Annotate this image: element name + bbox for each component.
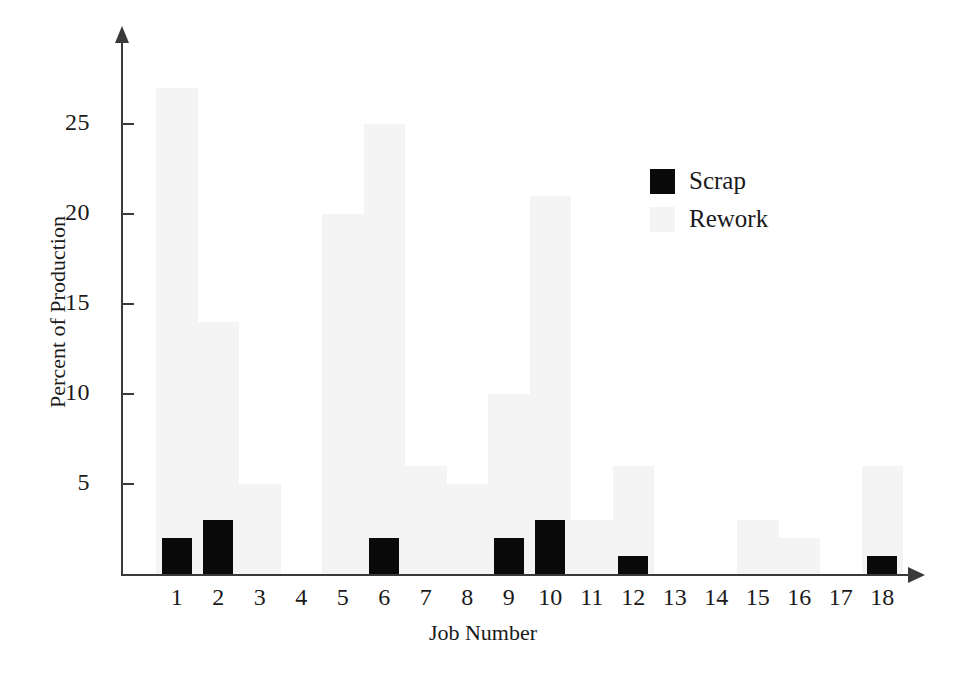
x-tick-label-6: 6 — [363, 583, 405, 611]
legend-label-rework: Rework — [689, 205, 768, 233]
x-tick-label-13: 13 — [654, 583, 696, 611]
y-tick-25 — [123, 123, 134, 125]
bar-rework-15 — [737, 520, 779, 574]
y-axis-arrow-icon — [115, 26, 129, 43]
bar-rework-6 — [364, 124, 406, 574]
x-tick-label-7: 7 — [405, 583, 447, 611]
y-tick-10 — [123, 393, 134, 395]
y-tick-5 — [123, 483, 134, 485]
bar-rework-3 — [239, 484, 281, 574]
x-tick-label-17: 17 — [820, 583, 862, 611]
x-tick-label-9: 9 — [488, 583, 530, 611]
legend-swatch-scrap-icon — [650, 169, 675, 194]
legend-item-rework: Rework — [650, 200, 880, 238]
x-tick-label-8: 8 — [446, 583, 488, 611]
y-tick-label-25: 25 — [44, 110, 90, 134]
chart-legend: ScrapRework — [650, 162, 880, 238]
x-axis-arrow-icon — [908, 567, 925, 583]
bar-scrap-10 — [535, 520, 565, 574]
x-tick-label-11: 11 — [571, 583, 613, 611]
x-tick-label-2: 2 — [197, 583, 239, 611]
x-tick-label-18: 18 — [861, 583, 903, 611]
bar-rework-10 — [530, 196, 572, 574]
bar-scrap-18 — [867, 556, 897, 574]
bar-rework-1 — [156, 88, 198, 574]
y-axis-title: Percent of Production — [46, 192, 70, 432]
bar-rework-8 — [447, 484, 489, 574]
x-axis-title: Job Number — [0, 620, 966, 646]
legend-item-scrap: Scrap — [650, 162, 880, 200]
bar-rework-7 — [405, 466, 447, 574]
bar-rework-5 — [322, 214, 364, 574]
bar-scrap-1 — [162, 538, 192, 574]
x-tick-label-16: 16 — [778, 583, 820, 611]
y-tick-15 — [123, 303, 134, 305]
x-tick-label-3: 3 — [239, 583, 281, 611]
x-tick-label-15: 15 — [737, 583, 779, 611]
bar-scrap-2 — [203, 520, 233, 574]
x-tick-label-1: 1 — [156, 583, 198, 611]
bar-scrap-6 — [369, 538, 399, 574]
bar-scrap-9 — [494, 538, 524, 574]
bar-chart: 510152025 Percent of Production 12345678… — [0, 0, 966, 676]
x-tick-label-5: 5 — [322, 583, 364, 611]
y-tick-20 — [123, 213, 134, 215]
x-axis-line — [121, 574, 911, 576]
bar-rework-16 — [779, 538, 821, 574]
bar-rework-11 — [571, 520, 613, 574]
legend-label-scrap: Scrap — [689, 167, 746, 195]
y-tick-label-5: 5 — [44, 470, 90, 494]
x-tick-label-4: 4 — [280, 583, 322, 611]
x-tick-label-10: 10 — [529, 583, 571, 611]
bar-scrap-12 — [618, 556, 648, 574]
x-tick-label-12: 12 — [612, 583, 654, 611]
legend-swatch-rework-icon — [650, 207, 675, 232]
y-axis-line — [121, 40, 123, 576]
x-tick-label-14: 14 — [695, 583, 737, 611]
